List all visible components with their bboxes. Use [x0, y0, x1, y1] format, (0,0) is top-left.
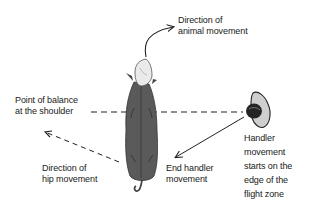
animal-movement-arrow: [145, 27, 173, 57]
diagram-canvas: Direction of animal movement Point of ba…: [0, 0, 313, 209]
label-line: at the shoulder: [15, 106, 78, 117]
cow-icon: [126, 59, 158, 191]
label-line: Direction of: [42, 163, 97, 174]
end-handler-label: End handler movement: [166, 163, 213, 185]
label-line: starts on the: [244, 159, 292, 173]
hip-movement-arrow: [45, 131, 119, 162]
label-line: Direction of: [178, 15, 248, 26]
handler-path-arrow: [176, 117, 244, 157]
label-line: hip movement: [42, 174, 97, 185]
hip-direction-label: Direction of hip movement: [42, 163, 97, 185]
animal-direction-label: Direction of animal movement: [178, 15, 248, 37]
handler-icon: [246, 92, 270, 127]
label-line: movement: [166, 174, 213, 185]
label-line: Handler: [244, 131, 292, 145]
label-line: End handler: [166, 163, 213, 174]
handler-start-label: Handler movement starts on the edge of t…: [244, 131, 292, 201]
label-line: edge of the: [244, 173, 292, 187]
label-line: animal movement: [178, 26, 248, 37]
label-line: movement: [244, 145, 292, 159]
label-line: Point of balance: [15, 95, 78, 106]
balance-point-label: Point of balance at the shoulder: [15, 95, 78, 117]
label-line: flight zone: [244, 187, 292, 201]
